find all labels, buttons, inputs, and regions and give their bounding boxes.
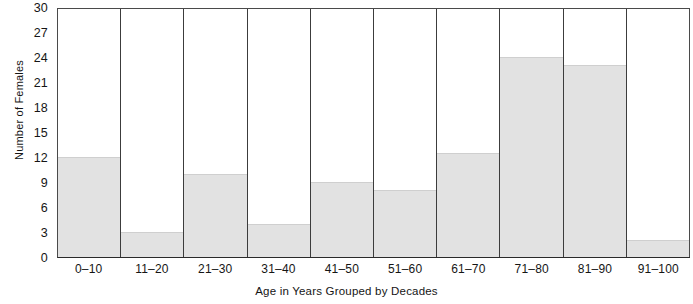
x-tick-label: 51–60 xyxy=(373,262,436,276)
y-axis-tick-labels: 036912151821242730 xyxy=(20,0,48,304)
histogram-figure: Number of Females 036912151821242730 0–1… xyxy=(0,0,693,304)
bar[interactable] xyxy=(58,157,120,257)
x-axis-tick-labels: 0–1011–2021–3031–4041–5051–6061–7071–808… xyxy=(57,262,690,276)
bar[interactable] xyxy=(184,174,246,257)
bar[interactable] xyxy=(627,240,689,257)
bar[interactable] xyxy=(121,232,183,257)
x-tick-label: 31–40 xyxy=(247,262,310,276)
x-tick-label: 41–50 xyxy=(310,262,373,276)
y-tick-label: 21 xyxy=(20,77,48,90)
bar-cell[interactable] xyxy=(58,9,121,257)
x-tick-label: 21–30 xyxy=(184,262,247,276)
y-tick-label: 3 xyxy=(20,227,48,240)
x-axis-title: Age in Years Grouped by Decades xyxy=(0,285,693,297)
bar-cell[interactable] xyxy=(311,9,374,257)
bar[interactable] xyxy=(374,190,436,257)
bar[interactable] xyxy=(500,57,562,257)
y-tick-label: 15 xyxy=(20,127,48,140)
bar-series xyxy=(58,9,690,257)
x-tick-label: 91–100 xyxy=(627,262,690,276)
y-tick-label: 12 xyxy=(20,152,48,165)
x-tick-label: 11–20 xyxy=(120,262,183,276)
bar[interactable] xyxy=(248,224,310,257)
bar-cell[interactable] xyxy=(248,9,311,257)
bar-cell[interactable] xyxy=(437,9,500,257)
y-tick-label: 24 xyxy=(20,52,48,65)
y-tick-label: 30 xyxy=(20,2,48,15)
y-tick-label: 27 xyxy=(20,27,48,40)
x-tick-label: 0–10 xyxy=(57,262,120,276)
bar-cell[interactable] xyxy=(121,9,184,257)
bar-cell[interactable] xyxy=(500,9,563,257)
y-tick-label: 6 xyxy=(20,202,48,215)
plot-area xyxy=(57,8,690,258)
x-tick-label: 61–70 xyxy=(437,262,500,276)
x-tick-label: 71–80 xyxy=(500,262,563,276)
bar-cell[interactable] xyxy=(374,9,437,257)
y-tick-label: 9 xyxy=(20,177,48,190)
bar-cell[interactable] xyxy=(627,9,690,257)
y-tick-label: 18 xyxy=(20,102,48,115)
bar-cell[interactable] xyxy=(184,9,247,257)
x-tick-label: 81–90 xyxy=(563,262,626,276)
bar-cell[interactable] xyxy=(564,9,627,257)
bar[interactable] xyxy=(311,182,373,257)
bar[interactable] xyxy=(437,153,499,257)
y-tick-label: 0 xyxy=(20,252,48,265)
bar[interactable] xyxy=(564,65,626,257)
